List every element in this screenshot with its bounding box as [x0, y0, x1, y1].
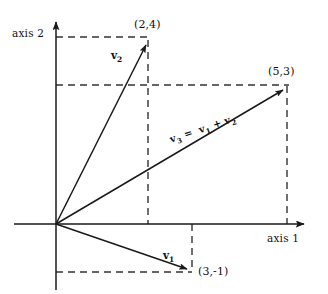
vector-arrows	[56, 45, 283, 269]
vector-label-v2: v2	[111, 50, 122, 61]
x-axis-label: axis 1	[267, 233, 299, 244]
point-label-2-4: (2,4)	[134, 19, 161, 30]
axes	[14, 22, 304, 290]
point-label-5-3: (5,3)	[268, 66, 295, 77]
vector-v1-arrow	[56, 224, 187, 269]
vector-label-v1-subscript: 1	[169, 255, 174, 264]
point-label-3-minus-1: (3,-1)	[198, 266, 228, 277]
y-axis-label: axis 2	[12, 28, 44, 39]
vector-label-v1: v1	[163, 250, 174, 261]
vector-label-v2-subscript: 2	[117, 55, 122, 64]
vector-diagram: axis 2 axis 1 (2,4) (5,3) (3,-1) v2 v1 v…	[0, 0, 328, 294]
